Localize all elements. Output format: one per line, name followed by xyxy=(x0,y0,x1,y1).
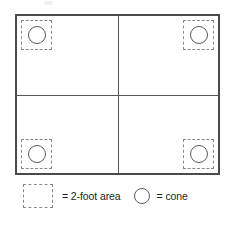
cone-icon xyxy=(190,26,208,44)
legend-label-area: = 2-foot area xyxy=(62,191,121,202)
scan-artifact xyxy=(44,1,53,5)
cone-icon xyxy=(190,145,208,163)
cone-icon xyxy=(28,145,46,163)
cone-icon xyxy=(28,26,46,44)
legend: = 2-foot area = cone xyxy=(15,181,220,211)
legend-label-cone: = cone xyxy=(157,191,188,202)
area-marker-bottom-left xyxy=(21,139,52,169)
area-marker-top-left xyxy=(21,20,52,50)
dashed-square-icon xyxy=(23,184,53,208)
circle-icon xyxy=(134,188,150,204)
playground-grid xyxy=(15,14,220,175)
diagram-canvas: = 2-foot area = cone xyxy=(0,0,235,226)
area-marker-top-right xyxy=(183,20,214,50)
area-marker-bottom-right xyxy=(183,139,214,169)
grid-divider-horizontal xyxy=(17,95,218,96)
